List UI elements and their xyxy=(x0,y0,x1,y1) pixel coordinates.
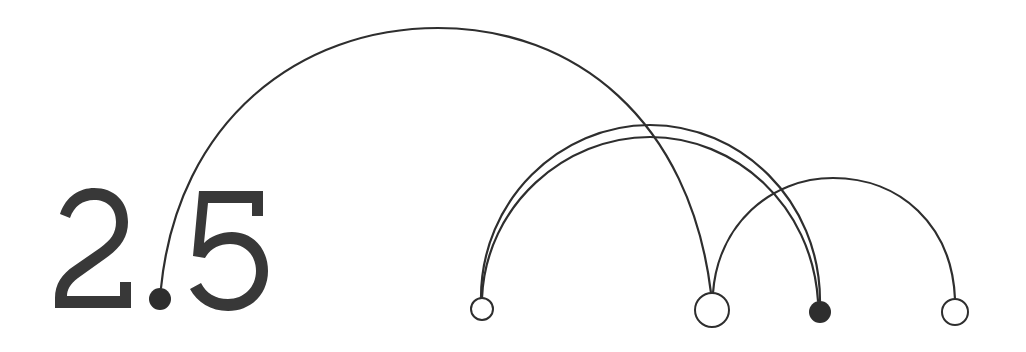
digit-two-glyph xyxy=(55,188,131,308)
arcs-layer xyxy=(161,28,955,301)
diagram-svg xyxy=(0,0,1026,352)
arc-n1-n3-inner xyxy=(482,137,818,301)
digit-five-glyph xyxy=(190,191,268,311)
nodes-layer xyxy=(149,288,968,327)
arc-n1-n3-outer xyxy=(481,125,820,301)
node-hollow-right xyxy=(942,299,968,325)
arc-n2-n4 xyxy=(713,178,955,299)
node-hollow-1 xyxy=(471,298,493,320)
node-filled xyxy=(809,301,831,323)
arc-diagram-canvas: 2.5 xyxy=(0,0,1026,352)
node-hollow-large xyxy=(695,293,729,327)
node-decimal-point-filled xyxy=(149,288,171,310)
arc-n0-n2 xyxy=(161,28,711,293)
